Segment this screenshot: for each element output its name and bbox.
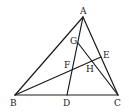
label-C: C [114, 98, 121, 108]
label-E: E [103, 50, 110, 60]
segment-AD [67, 17, 83, 95]
label-D: D [63, 98, 70, 108]
label-F: F [64, 60, 70, 70]
label-B: B [10, 98, 17, 108]
label-A: A [79, 6, 87, 16]
segment-BE [15, 57, 101, 95]
label-H: H [86, 64, 94, 74]
label-G: G [70, 36, 77, 46]
geometry-diagram: A B C D E F G H [0, 0, 129, 112]
segment-AB [15, 17, 83, 95]
